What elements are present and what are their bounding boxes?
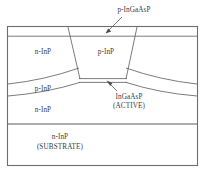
region-label-left-upper: n-InP [22, 48, 64, 56]
region-label-substrate-line1: n-InP [22, 133, 98, 142]
figure-canvas: p-InGaAsP n-InP p-InP p-InP n-InP InGaAs… [0, 0, 207, 175]
region-label-substrate-line2: (SUBSTRATE) [22, 143, 98, 152]
region-label-left-p-layer: p-InP [22, 85, 64, 93]
region-label-center-mesa: p-InP [85, 48, 127, 56]
region-label-left-n-layer: n-InP [22, 106, 64, 114]
callout-label-cap: p-InGaAsP [104, 6, 164, 14]
callout-label-active-line1: InGaAsP [100, 93, 158, 102]
callout-label-active-line2: (ACTIVE) [100, 102, 158, 111]
